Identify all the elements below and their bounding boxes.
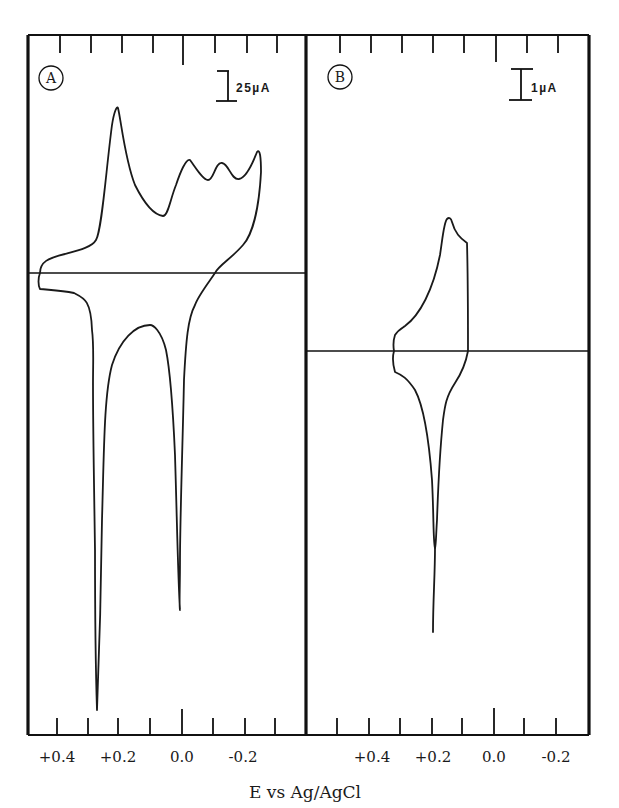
panel-b-top-ticks bbox=[340, 35, 558, 62]
x-axis-title: E vs Ag/AgCl bbox=[249, 782, 361, 802]
tick-label: 0.0 bbox=[170, 748, 194, 766]
panel-a-letter: A bbox=[45, 70, 57, 86]
panel-a-voltammogram-curve bbox=[39, 107, 262, 710]
tick-label: -0.2 bbox=[229, 748, 258, 766]
panel-a-bottom-ticks bbox=[57, 709, 275, 735]
panel-b-bottom-ticks bbox=[337, 708, 556, 735]
plot-frame bbox=[28, 35, 589, 735]
panel-b-scale-bar: 1µA bbox=[509, 69, 558, 100]
panel-b-x-tick-labels: +0.4 +0.2 0.0 -0.2 bbox=[354, 748, 571, 766]
tick-label: 0.0 bbox=[482, 748, 506, 766]
panel-a-x-tick-labels: +0.4 +0.2 0.0 -0.2 bbox=[39, 748, 258, 766]
panel-a-top-ticks bbox=[60, 35, 277, 65]
tick-label: +0.4 bbox=[39, 748, 75, 766]
panel-b-tail-curve bbox=[433, 548, 435, 632]
panel-b-label: B bbox=[328, 65, 352, 89]
tick-label: -0.2 bbox=[542, 748, 571, 766]
tick-label: +0.2 bbox=[100, 748, 136, 766]
panel-a-label: A bbox=[39, 66, 63, 90]
panel-b-voltammogram-curve bbox=[393, 218, 468, 548]
panel-a-scale-label: 25µA bbox=[236, 81, 271, 95]
panel-b-scale-label: 1µA bbox=[531, 81, 558, 95]
tick-label: +0.4 bbox=[354, 748, 390, 766]
panel-a-scale-bar: 25µA bbox=[216, 71, 271, 101]
cyclic-voltammogram-figure: A B 25µA 1µA +0.4 +0.2 0.0 -0.2 +0.4 +0.… bbox=[0, 0, 619, 808]
tick-label: +0.2 bbox=[415, 748, 451, 766]
panel-b-letter: B bbox=[335, 69, 345, 85]
